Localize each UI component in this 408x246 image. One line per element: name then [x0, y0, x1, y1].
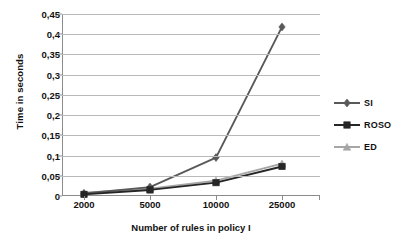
x-axis-tick-labels: 200050001000025000: [62, 199, 320, 215]
y-axis-tick: [58, 94, 62, 95]
legend-label: ROSO: [364, 120, 391, 130]
x-axis-title: Number of rules in policy I: [62, 222, 320, 233]
legend-marker-icon: [334, 141, 360, 153]
gridline: [62, 135, 320, 136]
gridline: [62, 115, 320, 116]
gridline: [62, 95, 320, 96]
chart-legend: SIROSOED: [334, 92, 408, 158]
x-axis-tick-label: 2000: [73, 199, 94, 210]
legend-swatch: [334, 97, 360, 109]
legend-swatch: [334, 141, 360, 153]
legend-item-ed[interactable]: ED: [334, 136, 408, 158]
plot-area: [62, 14, 320, 196]
gridline: [62, 54, 320, 55]
legend-marker-icon: [334, 119, 360, 131]
legend-label: SI: [364, 98, 373, 108]
series-line-ed: [84, 164, 282, 193]
data-point-marker: [344, 99, 350, 107]
y-axis-tick: [58, 54, 62, 55]
x-axis-tick-label: 25000: [269, 199, 295, 210]
x-axis-tick-label: 5000: [139, 199, 160, 210]
line-chart: Time in seconds 0,450,40,350,30,250,20,1…: [0, 0, 408, 246]
legend-item-si[interactable]: SI: [334, 92, 408, 114]
legend-item-roso[interactable]: ROSO: [334, 114, 408, 136]
y-axis-tick: [58, 196, 62, 197]
gridline: [62, 75, 320, 76]
y-axis-tick: [58, 135, 62, 136]
data-point-marker: [279, 163, 285, 169]
y-axis-tick: [58, 34, 62, 35]
y-axis-tick: [58, 74, 62, 75]
y-axis-tick: [58, 14, 62, 15]
series-line-si: [84, 27, 282, 194]
y-axis-tick: [58, 155, 62, 156]
y-axis-tick-labels: 0,450,40,350,30,250,20,150,10,050: [18, 14, 60, 196]
gridline: [62, 34, 320, 35]
y-axis-tick: [58, 175, 62, 176]
data-point-marker: [147, 187, 153, 193]
legend-marker-icon: [334, 97, 360, 109]
gridline: [62, 14, 320, 15]
legend-swatch: [334, 119, 360, 131]
data-point-marker: [344, 122, 350, 128]
y-axis-tick: [58, 115, 62, 116]
legend-label: ED: [364, 142, 377, 152]
data-point-marker: [343, 143, 351, 150]
gridline: [62, 156, 320, 157]
data-point-marker: [213, 179, 219, 185]
series-layer: [62, 14, 320, 196]
gridline: [62, 176, 320, 177]
x-axis-tick-label: 10000: [203, 199, 229, 210]
